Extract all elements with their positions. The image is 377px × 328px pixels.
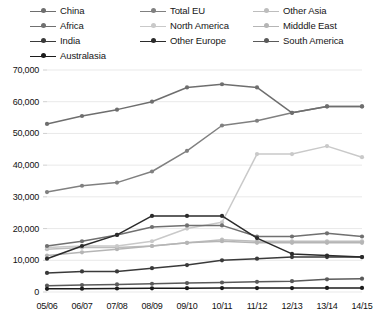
legend-swatch-icon <box>253 22 279 31</box>
data-point <box>325 104 329 108</box>
chart-legend: ChinaTotal EUOther AsiaAfricaNorth Ameri… <box>0 0 370 62</box>
legend-item-label: Australasia <box>60 51 106 61</box>
data-point <box>80 283 84 287</box>
legend-item-australasia[interactable]: Australasia <box>30 49 106 63</box>
x-axis-tick-label: 10/11 <box>205 302 239 311</box>
legend-swatch-icon <box>140 37 166 46</box>
series-other-europe <box>45 214 364 261</box>
data-point <box>255 236 259 240</box>
legend-item-label: Africa <box>60 21 84 31</box>
legend-item-north-america[interactable]: North America <box>140 19 229 33</box>
x-axis-tick-label: 05/06 <box>30 302 64 311</box>
plot-area: 010,00020,00030,00040,00050,00060,00070,… <box>0 62 370 328</box>
data-point <box>360 104 364 108</box>
data-point <box>255 85 259 89</box>
data-point <box>185 241 189 245</box>
data-point <box>220 214 224 218</box>
y-axis-tick-label: 0 <box>0 288 39 297</box>
series-india <box>45 255 364 275</box>
data-point <box>45 271 49 275</box>
legend-item-midddle-east[interactable]: Midddle East <box>253 19 337 33</box>
data-point <box>150 225 154 229</box>
x-axis-tick-label: 09/10 <box>170 302 204 311</box>
series-line <box>47 240 362 250</box>
series-layer <box>45 82 364 291</box>
series-line <box>47 257 362 273</box>
series-australasia <box>45 286 364 291</box>
data-point <box>290 241 294 245</box>
data-point <box>360 286 364 290</box>
data-point <box>325 241 329 245</box>
data-point <box>255 280 259 284</box>
data-point <box>290 279 294 283</box>
data-point <box>80 269 84 273</box>
data-point <box>185 85 189 89</box>
data-point <box>325 144 329 148</box>
data-point <box>255 152 259 156</box>
data-point <box>115 180 119 184</box>
series-line <box>47 216 362 259</box>
data-point <box>360 255 364 259</box>
series-line <box>47 279 362 286</box>
legend-item-label: North America <box>170 21 229 31</box>
data-point <box>150 266 154 270</box>
data-point <box>185 286 189 290</box>
data-point <box>185 281 189 285</box>
x-axis-tick-label: 12/13 <box>275 302 309 311</box>
x-axis-tick-label: 07/08 <box>100 302 134 311</box>
data-point <box>45 244 49 248</box>
series-africa <box>45 223 364 248</box>
legend-item-africa[interactable]: Africa <box>30 19 84 33</box>
legend-item-other-europe[interactable]: Other Europe <box>140 34 226 48</box>
legend-swatch-icon <box>140 7 166 16</box>
data-point <box>220 286 224 290</box>
legend-item-label: Midddle East <box>283 21 337 31</box>
legend-swatch-icon <box>253 37 279 46</box>
data-point <box>45 287 49 291</box>
data-point <box>115 108 119 112</box>
data-point <box>220 239 224 243</box>
data-point <box>220 258 224 262</box>
x-axis-tick-label: 08/09 <box>135 302 169 311</box>
data-point <box>220 123 224 127</box>
data-point <box>325 277 329 281</box>
legend-item-label: Other Asia <box>283 6 326 16</box>
data-point <box>45 257 49 261</box>
legend-swatch-icon <box>30 22 56 31</box>
y-axis-tick-label: 70,000 <box>0 66 39 75</box>
data-point <box>80 244 84 248</box>
data-point <box>255 257 259 261</box>
data-point <box>290 252 294 256</box>
data-point <box>80 184 84 188</box>
data-point <box>185 263 189 267</box>
data-point <box>185 223 189 227</box>
data-point <box>80 239 84 243</box>
data-point <box>45 122 49 126</box>
series-line <box>47 84 362 124</box>
y-axis-tick-label: 60,000 <box>0 98 39 107</box>
data-point <box>325 253 329 257</box>
legend-item-total-eu[interactable]: Total EU <box>140 4 205 18</box>
data-point <box>185 214 189 218</box>
data-point <box>220 223 224 227</box>
data-point <box>290 111 294 115</box>
plot-svg <box>0 62 370 328</box>
data-point <box>150 286 154 290</box>
legend-item-label: Total EU <box>170 6 205 16</box>
data-point <box>325 286 329 290</box>
legend-item-other-asia[interactable]: Other Asia <box>253 4 326 18</box>
legend-swatch-icon <box>30 7 56 16</box>
y-axis-tick-label: 30,000 <box>0 193 39 202</box>
legend-item-china[interactable]: China <box>30 4 84 18</box>
data-point <box>185 149 189 153</box>
data-point <box>150 169 154 173</box>
legend-item-south-america[interactable]: South America <box>253 34 343 48</box>
x-axis-tick-label: 11/12 <box>240 302 274 311</box>
data-point <box>115 269 119 273</box>
series-line <box>47 288 362 289</box>
legend-item-india[interactable]: India <box>30 34 80 48</box>
data-point <box>220 82 224 86</box>
legend-swatch-icon <box>253 7 279 16</box>
data-point <box>80 287 84 291</box>
